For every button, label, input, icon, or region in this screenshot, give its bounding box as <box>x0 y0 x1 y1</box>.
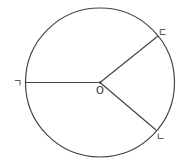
center-point <box>99 81 101 83</box>
point-label-g: ㄱ <box>13 78 22 89</box>
point-label-d: ㄷ <box>158 27 167 38</box>
radius-to-n <box>100 83 156 131</box>
radius-to-d <box>100 36 158 83</box>
point-label-n: ㄴ <box>156 131 165 142</box>
center-label: O <box>96 85 104 96</box>
circle-diagram: O ㄱ ㄷ ㄴ <box>0 0 186 167</box>
